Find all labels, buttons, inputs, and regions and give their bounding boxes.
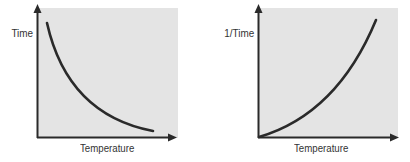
- plot-background: [37, 8, 178, 138]
- x-axis-label: Temperature: [294, 142, 348, 154]
- chart-time-vs-temperature: Time Temperature: [0, 0, 205, 162]
- y-axis-label: 1/Time: [224, 27, 254, 39]
- plot-background: [258, 8, 398, 138]
- chart-plot-area: [0, 0, 205, 162]
- chart-plot-area: [205, 0, 410, 162]
- y-axis-label: Time: [11, 27, 33, 39]
- x-axis-label: Temperature: [80, 142, 134, 154]
- chart-inverse-time-vs-temperature: 1/Time Temperature: [205, 0, 410, 162]
